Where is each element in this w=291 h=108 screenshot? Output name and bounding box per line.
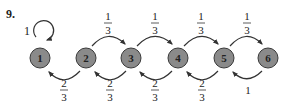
edge-label-den: 3 xyxy=(107,91,113,103)
edge-4-to-5: 1 3 xyxy=(184,10,218,46)
node-4: 4 xyxy=(168,48,188,68)
edge-label-den: 3 xyxy=(152,24,158,36)
node-1: 1 xyxy=(30,48,50,68)
edge-2-to-3: 1 3 xyxy=(92,10,125,46)
edge-label-den: 3 xyxy=(244,24,250,36)
edge-label-num: 2 xyxy=(107,77,113,89)
node-2: 2 xyxy=(76,48,96,68)
edge-label-den: 3 xyxy=(199,91,205,103)
markov-chain-diagram: 9. 1 1 3 1 3 1 3 1 3 2 3 2 3 xyxy=(0,0,291,108)
edge-label-num: 2 xyxy=(199,77,205,89)
edge-label-num: 1 xyxy=(105,10,111,22)
edge-label-num: 2 xyxy=(61,77,67,89)
problem-number: 9. xyxy=(6,7,15,21)
edge-6-to-5: 1 xyxy=(233,71,262,96)
node-label: 4 xyxy=(175,52,181,64)
node-label: 6 xyxy=(265,52,271,64)
edge-3-to-2: 2 3 xyxy=(95,71,126,103)
node-3: 3 xyxy=(121,48,141,68)
edge-label-num: 1 xyxy=(244,10,250,22)
edge-label-den: 3 xyxy=(105,24,111,36)
edge-2-to-1: 2 3 xyxy=(49,71,80,103)
node-label: 2 xyxy=(83,52,89,64)
edge-label: 1 xyxy=(245,84,251,96)
edge-label-num: 2 xyxy=(152,77,158,89)
node-label: 5 xyxy=(221,52,227,64)
node-label: 1 xyxy=(37,52,43,64)
edge-label-num: 1 xyxy=(198,10,204,22)
edge-label-num: 1 xyxy=(152,10,158,22)
edge-label-den: 3 xyxy=(61,91,67,103)
edge-label-1-to-1: 1 xyxy=(24,24,30,38)
edge-5-to-6: 1 3 xyxy=(230,10,262,46)
edge-label-den: 3 xyxy=(198,24,204,36)
edge-4-to-3: 2 3 xyxy=(140,71,172,103)
edge-1-to-1: 1 xyxy=(24,21,54,40)
node-label: 3 xyxy=(128,52,134,64)
edge-5-to-4: 2 3 xyxy=(187,71,218,103)
node-6: 6 xyxy=(258,48,278,68)
edge-3-to-4: 1 3 xyxy=(137,10,172,46)
node-5: 5 xyxy=(214,48,234,68)
edge-label-den: 3 xyxy=(152,91,158,103)
